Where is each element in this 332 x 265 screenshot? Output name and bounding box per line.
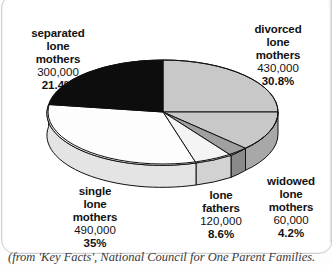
label-line-2: fathers xyxy=(184,202,258,215)
label-line-3: mothers xyxy=(44,211,146,224)
slice-label-single-lone-mothers: single lone mothers 490,000 35% xyxy=(44,185,146,249)
label-percent: 8.6% xyxy=(184,228,258,241)
label-value: 120,000 xyxy=(184,215,258,228)
label-value: 430,000 xyxy=(228,62,328,75)
label-line-1: widowed xyxy=(250,175,332,188)
label-line-1: divorced xyxy=(228,23,328,36)
scanned-page: separated lone mothers 300,000 21.4% div… xyxy=(0,0,332,265)
label-line-3: mothers xyxy=(228,49,328,62)
label-line-2: lone xyxy=(228,36,328,49)
label-value: 60,000 xyxy=(250,214,332,227)
label-percent: 4.2% xyxy=(250,227,332,240)
label-line-2: lone xyxy=(44,198,146,211)
slice-label-divorced-lone-mothers: divorced lone mothers 430,000 30.8% xyxy=(228,23,328,87)
slice-label-lone-fathers: lone fathers 120,000 8.6% xyxy=(184,189,258,241)
slice-label-separated-lone-mothers: separated lone mothers 300,000 21.4% xyxy=(6,27,110,91)
label-percent: 35% xyxy=(44,237,146,250)
label-percent: 21.4% xyxy=(6,79,110,92)
source-caption: (from 'Key Facts', National Council for … xyxy=(8,250,328,265)
label-line-3: mothers xyxy=(6,53,110,66)
label-value: 300,000 xyxy=(6,66,110,79)
label-line-1: single xyxy=(44,185,146,198)
label-line-1: lone xyxy=(184,189,258,202)
label-line-3: mothers xyxy=(250,201,332,214)
label-line-2: lone xyxy=(6,40,110,53)
label-line-1: separated xyxy=(6,27,110,40)
label-line-2: lone xyxy=(250,188,332,201)
slice-label-widowed-lone-mothers: widowed lone mothers 60,000 4.2% xyxy=(250,175,332,239)
label-percent: 30.8% xyxy=(228,75,328,88)
label-value: 490,000 xyxy=(44,224,146,237)
